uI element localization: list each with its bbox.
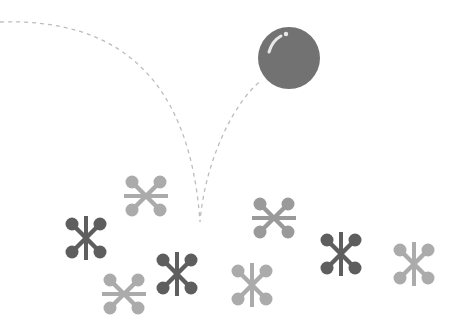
jack (157, 252, 198, 296)
ball-highlight-dot (284, 32, 288, 36)
ball-trajectory-dashed-path (0, 22, 262, 222)
jack (102, 274, 146, 315)
jack (394, 242, 435, 286)
ball-body (258, 27, 320, 89)
jacks-scene (0, 0, 459, 331)
jack (321, 232, 362, 276)
jack (252, 198, 296, 239)
jack (124, 176, 168, 217)
jack (232, 263, 273, 307)
ball (258, 27, 320, 89)
jack (66, 216, 107, 260)
jacks-group (66, 176, 435, 315)
